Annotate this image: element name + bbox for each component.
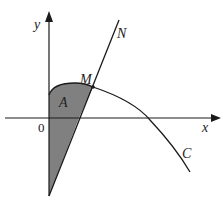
curve-c-label: C	[182, 146, 192, 161]
origin-label: 0	[38, 120, 45, 135]
point-m	[91, 85, 95, 89]
point-m-label: M	[79, 72, 93, 87]
x-axis-label: x	[201, 120, 209, 135]
region-a-label: A	[58, 95, 68, 110]
y-axis-arrow-icon	[45, 11, 53, 22]
line-n-label: N	[116, 26, 127, 41]
y-axis-label: y	[32, 17, 41, 32]
diagram-canvas: y x 0 M N C A	[0, 0, 223, 208]
x-axis-arrow-icon	[211, 114, 221, 122]
